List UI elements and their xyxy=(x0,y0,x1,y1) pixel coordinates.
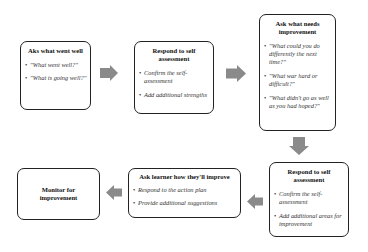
arrow-right-icon xyxy=(226,65,246,82)
step-ask-learner-how-theyll-improve: Ask learner how they'll improve Respond … xyxy=(128,168,241,218)
step-item: Confirm the self-assessment xyxy=(138,69,210,85)
step-monitor-for-improvement: Monitor for improvement xyxy=(17,168,100,220)
step-title: Ask what needs improvement xyxy=(263,20,332,36)
step-item: "What could you do differently the next … xyxy=(263,42,332,66)
step-title: Ask learner how they'll improve xyxy=(132,173,237,181)
arrow-down-icon xyxy=(289,137,309,155)
step-item: "What didn't go as well as you had hoped… xyxy=(263,94,332,110)
step-title: Aks what went well xyxy=(24,47,87,55)
step-respond-to-self-assessment-2: Respond to self assessment Confirm the s… xyxy=(269,162,349,237)
step-item: "What war hard or difficult?" xyxy=(263,72,332,88)
arrow-right-icon xyxy=(100,65,118,81)
arrow-left-icon xyxy=(247,194,263,209)
step-item: Add additional strengths xyxy=(138,91,210,99)
step-item: Confirm the self-assessment xyxy=(273,190,345,206)
step-item: Add additional areas for improvement xyxy=(273,212,345,228)
step-item: "What went well?" xyxy=(24,61,87,69)
step-ask-what-needs-improvement: Ask what needs improvement "What could y… xyxy=(259,14,336,131)
step-title: Respond to self assessment xyxy=(273,168,345,184)
step-item: Provide additional suggestions xyxy=(132,199,237,207)
step-title: Respond to self assessment xyxy=(138,47,210,63)
arrow-left-icon xyxy=(106,185,122,200)
step-ask-what-went-well: Aks what went well "What went well?" "Wh… xyxy=(20,41,91,110)
step-title: Monitor for improvement xyxy=(34,186,84,202)
step-respond-to-self-assessment: Respond to self assessment Confirm the s… xyxy=(134,41,214,114)
step-item: Respond to the action plan xyxy=(132,186,237,194)
step-item: "What is going well?" xyxy=(24,74,87,82)
